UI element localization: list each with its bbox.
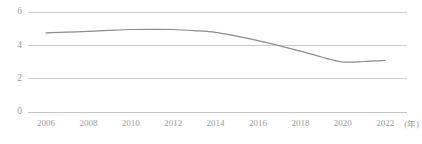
x-tick-label-2008: 2008 (79, 118, 98, 128)
line-chart: 0246 20062008201020122014201620182020202… (0, 0, 422, 144)
x-tick-label-2022: 2022 (376, 118, 394, 128)
x-tick-label-2010: 2010 (122, 118, 141, 128)
x-tick-label-2012: 2012 (164, 118, 182, 128)
x-tick-label-2014: 2014 (207, 118, 226, 128)
y-tick-label-2: 2 (17, 73, 22, 83)
y-tick-label-4: 4 (17, 40, 22, 50)
data-series (46, 29, 385, 62)
y-tick-label-6: 6 (17, 6, 22, 16)
x-tick-label-2020: 2020 (334, 118, 353, 128)
x-tick-label-2016: 2016 (249, 118, 268, 128)
x-tick-label-2006: 2006 (37, 118, 56, 128)
chart-canvas: 0246 20062008201020122014201620182020202… (0, 0, 422, 144)
y-axis-tick-labels: 0246 (17, 6, 22, 116)
y-tick-label-0: 0 (17, 106, 22, 116)
x-tick-label-2018: 2018 (291, 118, 310, 128)
x-axis-unit-label: (年) (404, 119, 419, 129)
x-axis-tick-labels: 200620082010201220142016201820202022 (37, 118, 394, 128)
series-line-0 (46, 29, 385, 62)
